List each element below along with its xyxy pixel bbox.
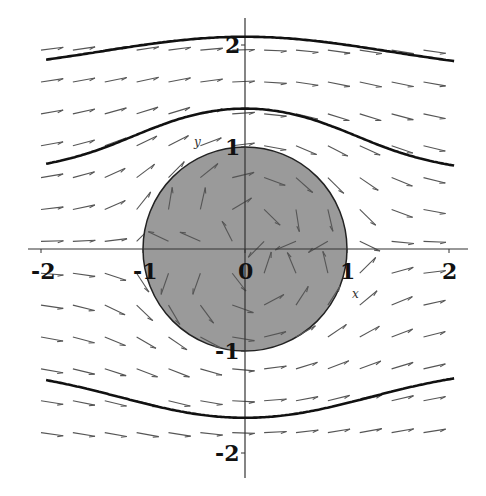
vector-arrow [73, 140, 95, 146]
vector-arrow [392, 429, 414, 433]
vector-arrow [424, 178, 446, 184]
x-tick-label: 2 [442, 258, 457, 284]
x-tick-label: -2 [31, 258, 55, 284]
vector-arrow [264, 366, 286, 369]
vector-arrow [264, 50, 286, 52]
vector-arrow [200, 79, 222, 82]
vector-arrow [392, 329, 413, 337]
vector-arrow [360, 429, 382, 433]
vector-arrow [296, 397, 318, 401]
vector-arrow [232, 81, 254, 83]
vector-arrow [41, 369, 63, 374]
vector-arrow [328, 146, 348, 156]
vector-arrow [360, 291, 377, 305]
vector-arrow [296, 50, 318, 53]
vector-arrow [105, 401, 127, 407]
vector-arrow [137, 136, 157, 146]
vector-arrow [105, 273, 126, 280]
vector-arrow [137, 337, 156, 348]
vector-arrow [137, 433, 159, 438]
vector-arrow [328, 324, 347, 337]
vector-arrow [360, 209, 376, 225]
vector-arrow [264, 399, 286, 401]
vector-arrow [200, 433, 222, 437]
vector-arrow [137, 107, 158, 114]
vector-arrow [41, 207, 63, 210]
vector-arrow [169, 369, 190, 377]
vector-arrow [105, 108, 127, 114]
vector-arrow [105, 239, 127, 242]
vector-arrow [41, 337, 63, 342]
vector-arrow [41, 47, 63, 50]
vector-arrow [424, 82, 446, 87]
vector-arrow [73, 337, 95, 343]
vector-arrow [424, 429, 446, 432]
vector-arrow [73, 369, 95, 375]
vector-arrow [200, 369, 222, 375]
vector-arrow [105, 168, 125, 177]
vector-arrow [137, 192, 151, 210]
vector-arrow [424, 300, 446, 305]
vector-arrow [73, 172, 95, 178]
vector-arrow [296, 146, 317, 155]
vector-arrow [392, 178, 413, 186]
vector-arrow [41, 401, 63, 405]
vector-arrow [360, 146, 380, 155]
vector-arrow [296, 362, 317, 369]
vector-arrow [73, 205, 95, 210]
vector-arrow [360, 178, 379, 191]
vector-arrow [73, 401, 95, 406]
vector-arrow [424, 146, 446, 152]
vector-arrow [360, 82, 382, 87]
vector-arrow [105, 337, 126, 346]
vector-arrow [392, 114, 414, 120]
vector-arrow [328, 178, 344, 194]
vector-arrow [73, 433, 95, 437]
vector-arrow [232, 112, 254, 114]
vector-arrow [41, 433, 63, 437]
vector-arrow [137, 164, 155, 177]
y-tick-label: 2 [225, 32, 240, 58]
vector-arrow [169, 107, 190, 114]
vector-arrow [169, 337, 188, 350]
vector-arrow [424, 396, 446, 400]
x-axis-label: x [352, 287, 359, 301]
vector-arrow [41, 174, 63, 178]
vector-arrow [392, 82, 414, 87]
vector-arrow [392, 362, 413, 368]
vector-arrow [169, 78, 191, 82]
vector-arrow [41, 79, 63, 82]
vector-arrow [328, 361, 349, 369]
vector-arrow [232, 369, 254, 372]
x-tick-label: -1 [133, 258, 157, 284]
vector-arrow [392, 396, 414, 401]
vector-arrow [296, 82, 318, 86]
vector-arrow [73, 305, 95, 311]
vector-arrow [264, 114, 286, 117]
vector-arrow [41, 142, 63, 146]
vector-arrow [200, 138, 221, 146]
vector-arrow [392, 297, 413, 306]
vector-arrow [264, 82, 286, 85]
vector-arrow [424, 50, 446, 54]
vector-arrow [424, 241, 446, 243]
vector-arrow [328, 50, 350, 54]
streamline [46, 378, 454, 417]
vector-arrow [328, 114, 349, 121]
vector-arrow [328, 395, 350, 400]
vector-arrow [137, 77, 159, 82]
vector-arrow [73, 78, 95, 82]
vector-arrow [41, 241, 63, 243]
vector-arrow [296, 430, 318, 433]
streamline [46, 37, 454, 61]
y-tick-label: 1 [225, 134, 240, 160]
vector-arrow [137, 47, 159, 50]
vector-arrow [41, 110, 63, 114]
vector-arrow [105, 433, 127, 438]
vector-arrow [424, 114, 446, 119]
y-axis-label: y [193, 135, 201, 149]
vector-arrow [169, 47, 191, 50]
vector-arrow [424, 209, 446, 214]
vector-arrow [73, 109, 95, 114]
vector-arrow [169, 433, 191, 437]
